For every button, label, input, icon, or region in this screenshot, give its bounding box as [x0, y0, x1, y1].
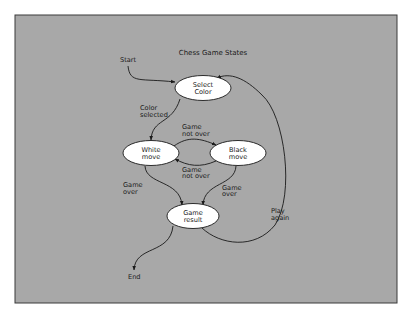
node-white-move: White move [123, 141, 179, 166]
diagram-panel [15, 15, 397, 303]
diagram-title: Chess Game States [179, 49, 248, 57]
edge-label-white-game-over-line2: over [123, 188, 138, 196]
node-black-move: Black move [210, 141, 266, 166]
node-game-result: Game result [167, 204, 219, 229]
node-select-color-line2: Color [194, 88, 212, 96]
node-white-move-line2: move [142, 153, 160, 161]
end-label: End [128, 273, 141, 281]
edge-label-white-to-black-line2: not over [182, 130, 210, 138]
node-black-move-line2: move [229, 153, 247, 161]
edge-label-play-again-line2: again [271, 214, 289, 222]
state-diagram-canvas: Chess Game States Start Color selected G… [0, 0, 407, 314]
node-select-color: Select Color [175, 76, 231, 101]
edge-label-black-to-white-line2: not over [182, 172, 210, 180]
node-game-result-line2: result [184, 216, 203, 224]
edge-label-color-selected-line2: selected [140, 111, 168, 119]
edge-label-black-game-over-line2: over [222, 190, 237, 198]
start-label: Start [120, 56, 137, 64]
